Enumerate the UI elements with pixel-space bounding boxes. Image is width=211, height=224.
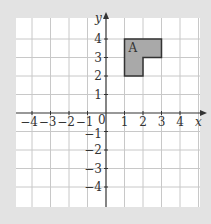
coordinate-plane: A x y 0 −4−3−2−112344321−1−2−3−4 [0,0,211,224]
y-tick-label: 1 [94,88,102,102]
origin-label: 0 [98,113,106,127]
y-tick-label: −1 [84,127,102,141]
y-axis-label: y [94,11,102,25]
x-tick-label: −2 [57,115,75,129]
x-tick-label: −4 [20,115,38,129]
y-tick-label: 3 [94,51,102,65]
x-tick-label: 4 [176,115,184,129]
x-tick-label: −3 [39,115,57,129]
y-tick-label: 2 [94,69,102,83]
y-tick-label: −3 [84,162,102,176]
x-axis-label: x [195,115,202,129]
x-tick-label: 2 [139,115,147,129]
x-tick-label: 1 [121,115,129,129]
y-axis-arrow-icon [103,12,109,19]
y-tick-label: −2 [84,143,102,157]
x-tick-label: 3 [158,115,166,129]
y-tick-label: −4 [84,180,102,194]
y-tick-label: 4 [94,32,102,46]
shape-a-label: A [128,41,138,55]
